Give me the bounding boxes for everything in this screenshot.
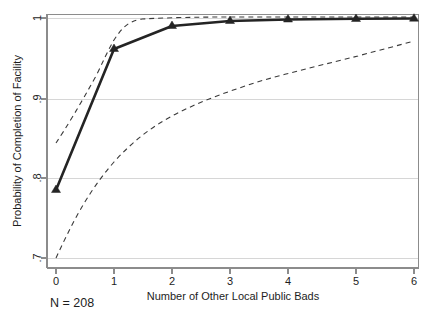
y-tick-label-0-8: .8 — [31, 173, 43, 182]
y-tick-label-0-9: .9 — [31, 94, 43, 103]
probability-completion-line-chart: 1 .9 .8 .7 0 1 2 3 4 5 6 Probability of … — [0, 0, 434, 319]
x-tick-label-6: 6 — [411, 275, 417, 287]
x-tick-label-2: 2 — [169, 275, 175, 287]
x-tick-label-0: 0 — [53, 275, 59, 287]
x-tick-label-1: 1 — [111, 275, 117, 287]
x-axis-title: Number of Other Local Public Bads — [147, 290, 320, 302]
x-axis: 0 1 2 3 4 5 6 — [47, 268, 419, 287]
y-tick-label-1: 1 — [31, 15, 43, 21]
y-axis: 1 .9 .8 .7 — [31, 14, 47, 268]
plot-background — [47, 14, 419, 268]
y-tick-label-0-7: .7 — [31, 253, 43, 262]
chart-figure: 1 .9 .8 .7 0 1 2 3 4 5 6 Probability of … — [0, 0, 434, 319]
x-tick-label-4: 4 — [285, 275, 291, 287]
y-axis-title: Probability of Completion of Facility — [11, 55, 23, 227]
x-tick-label-5: 5 — [353, 275, 359, 287]
x-tick-label-3: 3 — [227, 275, 233, 287]
sample-size-annotation: N = 208 — [50, 296, 94, 310]
